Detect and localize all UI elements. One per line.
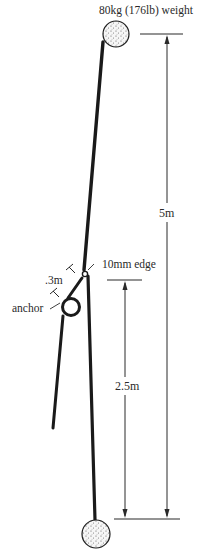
total-height-label: 5m <box>159 206 175 220</box>
anchor-offset-label: .3m <box>45 274 63 286</box>
bottom-weight <box>82 520 110 548</box>
edge-icon <box>82 271 87 276</box>
fall-diagram: 80kg (176lb) weight 5m 10mm edge .3m anc… <box>0 0 199 556</box>
edge-label: 10mm edge <box>102 258 156 271</box>
top-weight <box>103 21 129 47</box>
lower-height-label: 2.5m <box>115 379 140 393</box>
anchor-icon <box>63 299 80 316</box>
rope-to-anchor <box>68 278 82 298</box>
rope-lower-segment <box>88 276 95 520</box>
total-height-dimension <box>140 34 183 518</box>
rope-upper-segment <box>84 42 103 270</box>
lower-height-dimension <box>107 280 142 518</box>
top-weight-label: 80kg (176lb) weight <box>99 4 194 17</box>
rope-slack-tail <box>53 316 63 428</box>
edge-leader <box>88 264 94 270</box>
anchor-leader <box>50 303 60 309</box>
anchor-label: anchor <box>12 302 43 314</box>
